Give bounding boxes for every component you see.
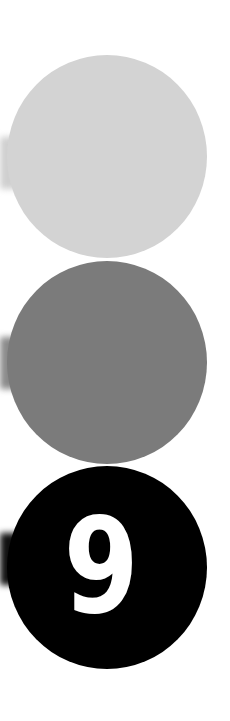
step-marker-medium-gray xyxy=(7,261,207,464)
step-marker-light-gray xyxy=(7,55,207,258)
step-number-nine: 9 xyxy=(64,500,138,632)
step-marker-black-active: 9 xyxy=(7,466,207,669)
